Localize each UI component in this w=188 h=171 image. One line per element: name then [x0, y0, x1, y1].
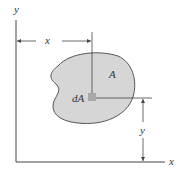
area-label: A: [108, 68, 116, 80]
differential-area-element: [88, 93, 96, 101]
y-dimension-label: y: [139, 124, 145, 136]
element-label: dA: [72, 92, 85, 104]
area-region: [51, 53, 135, 124]
y-axis-label: y: [13, 3, 19, 15]
x-dimension-label: x: [44, 34, 50, 46]
x-axis-label: x: [168, 155, 174, 167]
centroid-diagram: y x x y A dA: [0, 0, 188, 171]
